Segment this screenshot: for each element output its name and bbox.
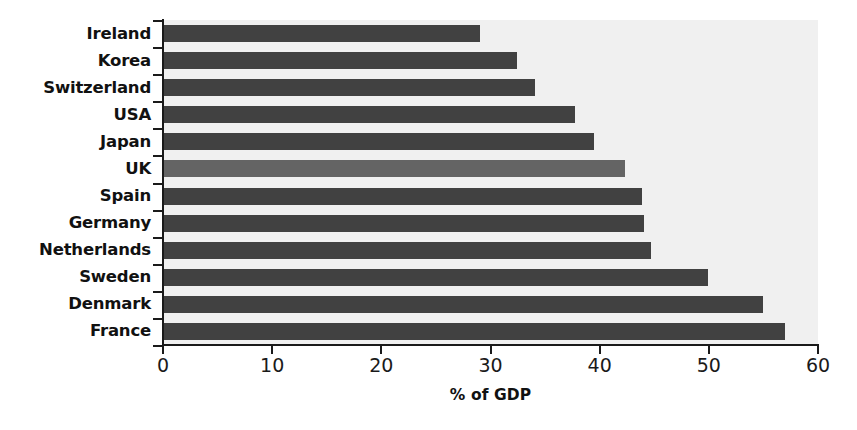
y-axis-tick	[153, 155, 163, 157]
x-axis-tick	[708, 345, 710, 354]
bar-row	[163, 20, 818, 47]
bar-korea	[163, 52, 517, 69]
x-axis-tick	[162, 345, 164, 354]
x-axis-tick-label: 10	[242, 356, 302, 375]
x-axis-tick-label: 20	[351, 356, 411, 375]
y-axis-label-spain: Spain	[0, 188, 151, 205]
bar-row	[163, 47, 818, 74]
x-axis-tick	[599, 345, 601, 354]
y-axis-label-sweden: Sweden	[0, 269, 151, 286]
bar-netherlands	[163, 242, 651, 259]
bars-layer	[163, 20, 818, 345]
x-axis-tick	[817, 345, 819, 354]
bar-japan	[163, 133, 594, 150]
bar-row	[163, 291, 818, 318]
y-axis-label-korea: Korea	[0, 53, 151, 70]
y-axis-label-switzerland: Switzerland	[0, 80, 151, 97]
y-axis-tick	[153, 128, 163, 130]
y-axis-label-usa: USA	[0, 107, 151, 124]
bar-denmark	[163, 296, 763, 313]
x-axis-tick-label: 60	[788, 356, 848, 375]
x-axis-tick	[380, 345, 382, 354]
y-axis-label-uk: UK	[0, 161, 151, 178]
x-axis-tick-label: 40	[570, 356, 630, 375]
y-axis-label-ireland: Ireland	[0, 26, 151, 43]
bar-uk	[163, 160, 625, 177]
y-axis-tick	[153, 237, 163, 239]
y-axis-label-france: France	[0, 323, 151, 340]
x-axis-tick-label: 50	[679, 356, 739, 375]
bar-chart: IrelandKoreaSwitzerlandUSAJapanUKSpainGe…	[0, 0, 857, 430]
bar-row	[163, 128, 818, 155]
y-axis-tick	[153, 47, 163, 49]
bar-sweden	[163, 269, 708, 286]
y-axis-label-denmark: Denmark	[0, 296, 151, 313]
y-axis-tick	[153, 210, 163, 212]
y-axis-label-japan: Japan	[0, 134, 151, 151]
bar-usa	[163, 106, 575, 123]
bar-switzerland	[163, 79, 535, 96]
x-axis-tick-label: 30	[461, 356, 521, 375]
y-axis-label-germany: Germany	[0, 215, 151, 232]
x-axis-tick-label: 0	[133, 356, 193, 375]
bar-row	[163, 237, 818, 264]
bar-ireland	[163, 25, 480, 42]
y-axis-tick	[153, 291, 163, 293]
x-axis-tick	[490, 345, 492, 354]
y-axis-tick	[153, 101, 163, 103]
bar-spain	[163, 188, 642, 205]
bar-france	[163, 323, 785, 340]
bar-row	[163, 183, 818, 210]
x-axis-tick	[271, 345, 273, 354]
y-axis-tick	[153, 20, 163, 22]
y-axis-tick	[153, 264, 163, 266]
bar-row	[163, 101, 818, 128]
x-axis-title: % of GDP	[163, 386, 818, 404]
bar-row	[163, 155, 818, 182]
y-axis-tick	[153, 183, 163, 185]
bar-row	[163, 210, 818, 237]
bar-row	[163, 74, 818, 101]
bar-row	[163, 264, 818, 291]
y-axis-tick	[153, 318, 163, 320]
bar-germany	[163, 215, 644, 232]
y-axis-label-netherlands: Netherlands	[0, 242, 151, 259]
bar-row	[163, 318, 818, 345]
y-axis-tick	[153, 74, 163, 76]
